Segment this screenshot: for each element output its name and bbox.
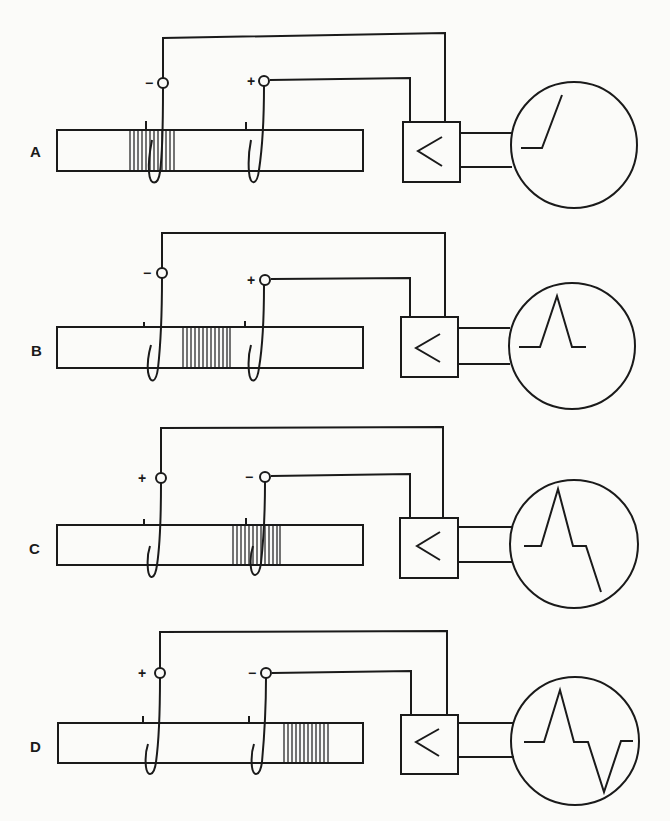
panel-d: D + − [30,631,639,805]
polarity-sign: + [247,73,255,89]
depolarized-region [130,130,174,171]
amplifier-box [403,122,460,182]
electrode-terminal-right [261,668,271,678]
electrode-terminal-right [259,76,269,86]
amplifier-icon [416,334,440,362]
electrode-terminal-left [158,78,168,88]
amplifier-icon [416,729,439,756]
amplifier-box [401,317,458,377]
oscilloscope-screen [511,82,637,208]
electrode-loop-left [148,483,161,577]
electrode-terminal-right [260,472,270,482]
electrode-terminal-left [156,473,166,483]
electrode-loop-right [249,285,264,381]
panel-b: B − + [31,233,635,409]
panel-label: B [31,342,42,359]
amplifier-box [401,715,458,774]
nerve-fiber [57,525,363,565]
amplifier-icon [417,532,440,560]
nerve-fiber [58,723,363,763]
depolarized-region [183,327,230,368]
lead-wire-right [272,671,411,715]
nerve-recording-diagram: A − + B [0,0,670,821]
electrode-loop-right [249,86,264,182]
polarity-sign: + [138,665,146,681]
electrode-terminal-left [155,668,165,678]
polarity-sign: − [143,265,151,281]
depolarized-region [284,723,328,763]
trace-waveform [524,690,633,792]
polarity-sign: − [248,665,256,681]
electrode-loop-left [146,678,160,774]
panel-label: A [30,143,41,160]
lead-wire-right [271,474,410,518]
lead-wire-left [162,233,445,317]
trace-waveform [519,296,586,347]
lead-wire-right [271,278,410,317]
panel-label: C [29,540,40,557]
depolarized-region [233,525,280,565]
electrode-loop-left [148,278,162,381]
electrode-loop-left [149,88,163,183]
nerve-fiber [57,130,363,171]
lead-wire-left [161,427,443,518]
polarity-sign: − [245,469,253,485]
nerve-fiber [57,327,363,368]
panel-label: D [30,738,41,755]
electrode-terminal-left [157,268,167,278]
polarity-sign: − [145,75,153,91]
trace-waveform [524,489,601,592]
panel-a: A − + [30,33,637,208]
polarity-sign: + [138,470,146,486]
oscilloscope-screen [510,480,638,608]
amplifier-icon [418,137,442,166]
polarity-sign: + [247,272,255,288]
electrode-loop-right [252,678,266,774]
panel-c: C + − [29,427,638,608]
amplifier-box [400,518,458,578]
lead-wire-right [270,78,410,122]
electrode-terminal-right [260,275,270,285]
